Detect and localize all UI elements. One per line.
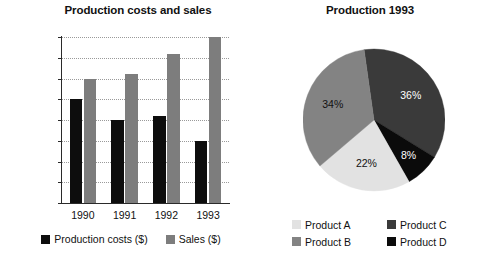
bar-sales xyxy=(84,79,97,204)
pie-slice-percent-label: 36% xyxy=(400,89,421,101)
legend-entry: Product C xyxy=(387,219,480,231)
bar-production-costs xyxy=(70,99,83,203)
figure-container: Production costs and sales 80 00070 0006… xyxy=(0,0,480,263)
legend-entry: Product D xyxy=(387,236,480,248)
x-axis-line xyxy=(61,203,230,204)
legend-entry: Sales ($) xyxy=(166,233,221,245)
bar-sales xyxy=(209,37,222,203)
pie-slice-percent-label: 8% xyxy=(401,149,416,161)
x-axis-tick-label: 1990 xyxy=(71,209,94,221)
pie-chart-panel: Production 1993 36%8%22%34% Product APro… xyxy=(248,0,480,263)
pie-chart-title: Production 1993 xyxy=(248,4,480,16)
legend-color-swatch xyxy=(166,235,175,244)
bar-production-costs xyxy=(153,116,166,203)
legend-color-swatch xyxy=(292,237,301,246)
bar-chart-legend: Production costs ($)Sales ($) xyxy=(0,233,248,245)
bar-sales xyxy=(167,54,180,203)
legend-label: Product D xyxy=(400,236,447,248)
y-axis-line xyxy=(61,36,62,204)
legend-label: Product A xyxy=(305,219,351,231)
gridline xyxy=(62,58,229,59)
pie-svg: 36%8%22%34% xyxy=(303,36,445,205)
legend-label: Product C xyxy=(400,219,447,231)
legend-label: Sales ($) xyxy=(179,233,221,245)
pie-chart-plot-area: 36%8%22%34% xyxy=(303,36,445,205)
x-axis-tick-label: 1993 xyxy=(196,209,219,221)
legend-color-swatch xyxy=(387,220,396,229)
x-axis-tick-label: 1991 xyxy=(113,209,136,221)
legend-label: Product B xyxy=(305,236,351,248)
x-axis-tick-label: 1992 xyxy=(155,209,178,221)
legend-color-swatch xyxy=(41,235,50,244)
legend-entry: Production costs ($) xyxy=(41,233,147,245)
bar-chart-plot-area: 80 00070 00060 00050 00040 00030 00020 0… xyxy=(62,37,229,203)
bar-production-costs xyxy=(111,120,124,203)
bar-chart-title: Production costs and sales xyxy=(0,4,262,16)
bar-sales xyxy=(125,74,138,203)
gridline xyxy=(62,37,229,38)
pie-slice-percent-label: 22% xyxy=(356,157,377,169)
bar-production-costs xyxy=(195,141,208,203)
pie-chart-legend: Product AProduct CProduct BProduct D xyxy=(292,216,480,250)
pie-slice-percent-label: 34% xyxy=(322,98,343,110)
legend-label: Production costs ($) xyxy=(54,233,147,245)
bar-chart-panel: Production costs and sales 80 00070 0006… xyxy=(0,0,248,263)
legend-color-swatch xyxy=(292,220,301,229)
legend-color-swatch xyxy=(387,237,396,246)
legend-entry: Product B xyxy=(292,236,387,248)
legend-entry: Product A xyxy=(292,219,387,231)
pie-slices-group xyxy=(303,49,445,191)
